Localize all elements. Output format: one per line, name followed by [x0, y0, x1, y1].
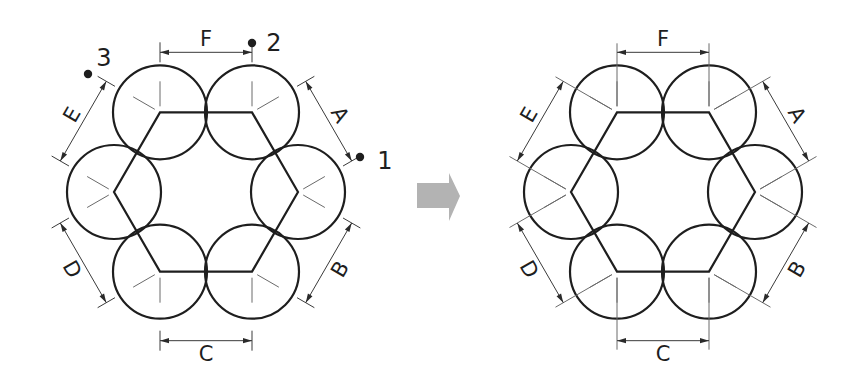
extension-line: [760, 195, 816, 228]
dimension-line: [60, 81, 106, 161]
spoke-line: [257, 275, 279, 288]
dimension-d: D: [52, 218, 115, 308]
point-2: 2: [248, 29, 282, 57]
point-1: 1: [356, 147, 393, 175]
dimension-label-e: E: [515, 103, 542, 127]
spoke-line: [133, 97, 155, 110]
hexagon: [114, 112, 298, 271]
right-diagram-after: ABCDEF: [510, 27, 817, 365]
point-label: 3: [96, 44, 111, 72]
dimension-a: A: [714, 77, 816, 189]
dimension-f: F: [160, 27, 252, 62]
dimension-label-b: B: [326, 257, 354, 281]
extension-line: [510, 157, 566, 190]
extension-line: [556, 275, 612, 308]
dimension-line: [306, 223, 352, 303]
extension-line: [760, 157, 816, 190]
point-dot: [84, 70, 92, 78]
dimension-label-f: F: [657, 27, 669, 51]
dimension-label-e: E: [58, 103, 85, 127]
spoke-line: [133, 275, 155, 288]
hexagon: [571, 112, 755, 271]
dimension-label-b: B: [783, 257, 811, 281]
point-label: 2: [266, 29, 281, 57]
extension-line: [510, 195, 566, 228]
diagram-stage: ABCDEF123 ABCDEF: [0, 0, 850, 374]
point-dot: [356, 153, 364, 161]
spoke-line: [87, 177, 109, 190]
dimension-b: B: [714, 195, 816, 307]
extension-line: [714, 77, 770, 110]
point-3: 3: [84, 44, 112, 78]
spoke-line: [303, 177, 325, 190]
dimension-d: D: [510, 195, 612, 307]
right-arrow-icon: [417, 173, 460, 221]
dimension-e: E: [510, 77, 612, 189]
dimension-label-c: C: [656, 342, 671, 366]
transition-arrow: [417, 173, 460, 221]
dimension-label-f: F: [200, 27, 212, 51]
dimension-c: C: [617, 278, 709, 366]
dimension-line: [763, 223, 809, 303]
dimension-e: E: [52, 76, 115, 166]
spoke-line: [257, 97, 279, 110]
dimension-line: [306, 81, 352, 161]
point-label: 1: [377, 147, 392, 175]
extension-line: [714, 275, 770, 308]
spoke-line: [303, 195, 325, 208]
dimension-c: C: [160, 331, 252, 366]
dimension-line: [517, 81, 563, 161]
dimension-label-c: C: [199, 342, 214, 366]
left-diagram-before: ABCDEF123: [52, 27, 393, 365]
spoke-line: [87, 195, 109, 208]
dimension-a: A: [297, 76, 360, 166]
extension-line: [556, 77, 612, 110]
dimension-line: [763, 81, 809, 161]
diagram-canvas: ABCDEF123 ABCDEF: [0, 0, 850, 374]
point-dot: [248, 39, 256, 47]
dimension-b: B: [297, 218, 360, 308]
